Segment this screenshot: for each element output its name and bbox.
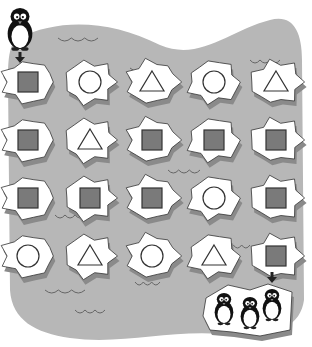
- square-icon: [18, 188, 38, 208]
- square-icon: [266, 130, 286, 150]
- square-icon: [266, 246, 286, 266]
- penguin-icon: [241, 297, 260, 329]
- square-icon: [80, 188, 100, 208]
- square-icon: [142, 130, 162, 150]
- square-icon: [204, 130, 224, 150]
- circle-icon: [79, 71, 101, 93]
- ice-floe-r4-c1[interactable]: [1, 236, 55, 283]
- maze-puzzle: [0, 0, 312, 347]
- circle-icon: [203, 71, 225, 93]
- circle-icon: [141, 245, 163, 267]
- penguin-icon: [8, 8, 33, 51]
- square-icon: [266, 188, 286, 208]
- square-icon: [18, 130, 38, 150]
- goal-ice-floe[interactable]: [203, 284, 294, 341]
- penguin-icon: [215, 293, 234, 325]
- puzzle-scene: [0, 0, 312, 347]
- square-icon: [18, 72, 38, 92]
- circle-icon: [17, 245, 39, 267]
- circle-icon: [203, 187, 225, 209]
- penguin-icon: [263, 289, 282, 321]
- square-icon: [142, 188, 162, 208]
